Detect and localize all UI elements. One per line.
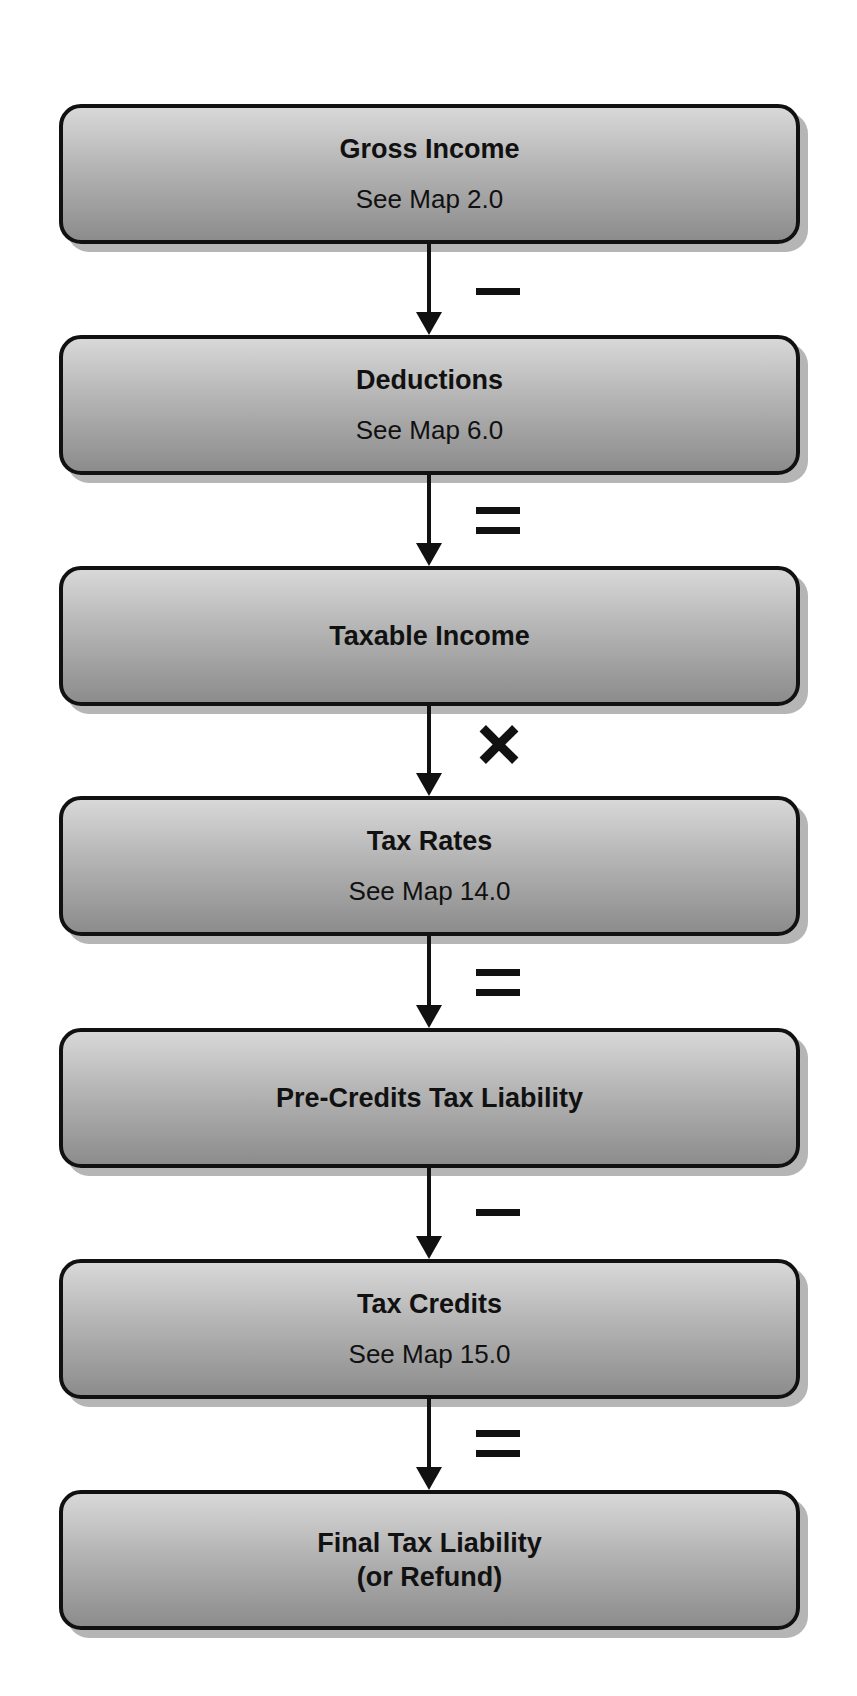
connector-line xyxy=(427,1168,431,1238)
step-deductions: Deductions See Map 6.0 xyxy=(59,335,800,475)
step-title: Gross Income xyxy=(339,132,519,166)
step-title-line2: (or Refund) xyxy=(357,1560,502,1594)
step-map-reference: See Map 2.0 xyxy=(356,182,503,216)
arrow-down-icon xyxy=(416,1236,442,1259)
times-icon xyxy=(479,725,519,765)
step-title: Tax Rates xyxy=(367,824,493,858)
connector-line xyxy=(427,706,431,775)
step-title: Pre-Credits Tax Liability xyxy=(276,1081,583,1115)
arrow-down-icon xyxy=(416,1005,442,1028)
step-tax-rates: Tax Rates See Map 14.0 xyxy=(59,796,800,936)
connector-line xyxy=(427,475,431,545)
step-map-reference: See Map 15.0 xyxy=(349,1337,511,1371)
step-title: Deductions xyxy=(356,363,503,397)
arrow-down-icon xyxy=(416,773,442,796)
arrow-down-icon xyxy=(416,1467,442,1490)
step-taxable-income: Taxable Income xyxy=(59,566,800,706)
connector-line xyxy=(427,244,431,314)
step-map-reference: See Map 14.0 xyxy=(349,874,511,908)
step-title: Tax Credits xyxy=(357,1287,502,1321)
step-tax-credits: Tax Credits See Map 15.0 xyxy=(59,1259,800,1399)
step-title: Final Tax Liability xyxy=(317,1526,542,1560)
step-final-tax-liability: Final Tax Liability (or Refund) xyxy=(59,1490,800,1630)
step-title: Taxable Income xyxy=(329,619,530,653)
arrow-down-icon xyxy=(416,312,442,335)
step-pre-credits-tax-liability: Pre-Credits Tax Liability xyxy=(59,1028,800,1168)
arrow-down-icon xyxy=(416,543,442,566)
connector-line xyxy=(427,1399,431,1469)
step-map-reference: See Map 6.0 xyxy=(356,413,503,447)
connector-line xyxy=(427,936,431,1007)
step-gross-income: Gross Income See Map 2.0 xyxy=(59,104,800,244)
